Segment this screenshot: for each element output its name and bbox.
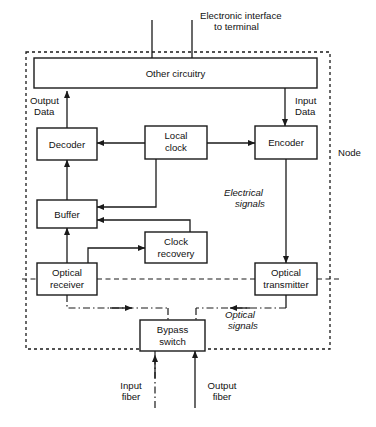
edge-optical-receiver-to-clock-recovery bbox=[88, 248, 145, 263]
block-optical-transmitter-label-line1: Optical bbox=[271, 267, 301, 278]
node-boundary-label: Node bbox=[338, 147, 361, 158]
block-optical-receiver-label-line2: receiver bbox=[50, 279, 85, 290]
edge-clock-recovery-to-buffer bbox=[97, 220, 190, 232]
block-optical-receiver-label-line1: Optical bbox=[52, 267, 82, 278]
block-decoder-label: Decoder bbox=[49, 139, 86, 150]
block-bypass-switch-label-line2: switch bbox=[159, 336, 186, 347]
electronic-interface-label-line2: to terminal bbox=[214, 21, 259, 32]
optical-signals-label-line2: signals bbox=[228, 320, 258, 331]
block-clock-recovery-label-line2: recovery bbox=[158, 248, 195, 259]
output-data-label-line1: Output bbox=[30, 95, 59, 106]
electrical-signals-label-line2: signals bbox=[235, 198, 265, 209]
block-other-circuitry-label: Other circuitry bbox=[146, 68, 206, 79]
optical-signals-label-line1: Optical bbox=[225, 309, 256, 320]
output-fiber-label-line2: fiber bbox=[213, 391, 232, 402]
node-block-diagram: Node Electronic interface to terminal Ot… bbox=[0, 0, 376, 427]
output-fiber-label-line1: Output bbox=[208, 380, 237, 391]
input-data-label-line1: Input bbox=[295, 95, 317, 106]
edge-local-clock-to-buffer bbox=[97, 159, 156, 207]
block-buffer-label: Buffer bbox=[54, 209, 80, 220]
block-bypass-switch-label-line1: Bypass bbox=[157, 324, 189, 335]
block-optical-transmitter-label-line2: transmitter bbox=[263, 279, 309, 290]
optical-path-bypass-to-receiver bbox=[67, 295, 168, 308]
block-local-clock-label-line1: Local bbox=[165, 130, 188, 141]
block-local-clock-label-line2: clock bbox=[165, 142, 187, 153]
block-clock-recovery-label-line1: Clock bbox=[164, 236, 188, 247]
input-data-label-line2: Data bbox=[295, 106, 316, 117]
electronic-interface-label-line1: Electronic interface bbox=[200, 10, 282, 21]
output-data-label-line2: Data bbox=[34, 106, 55, 117]
electrical-signals-label-line1: Electrical bbox=[224, 187, 264, 198]
input-fiber-label-line1: Input bbox=[120, 380, 142, 391]
block-encoder-label: Encoder bbox=[268, 137, 305, 148]
input-fiber-label-line2: fiber bbox=[122, 391, 141, 402]
